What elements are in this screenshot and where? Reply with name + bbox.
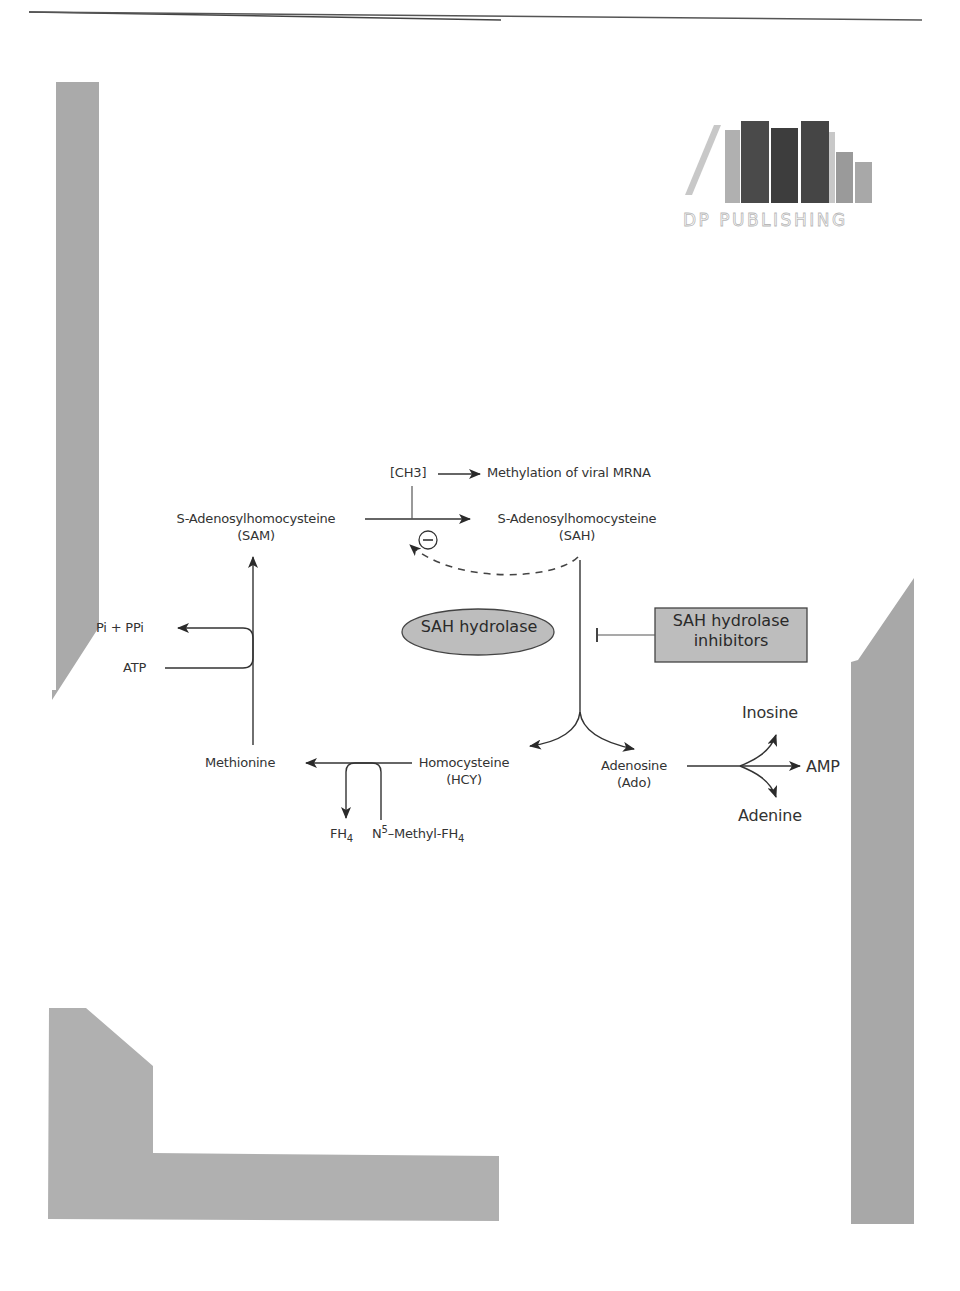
fh4-base: FH (330, 826, 347, 841)
books-bars-icon (685, 121, 872, 203)
label-pi-ppi: Pi + PPi (96, 620, 144, 635)
label-atp: ATP (123, 660, 146, 675)
decor-right-bar (851, 578, 914, 1224)
label-n5-methyl-fh4: N5–Methyl-FH4 (372, 824, 464, 844)
label-sah-name: S-Adenosylhomocysteine (498, 511, 657, 526)
n5-base: N (372, 826, 382, 841)
label-sam-name: S-Adenosylhomocysteine (177, 511, 336, 526)
arrow-to-inosine (740, 735, 776, 766)
dashed-feedback-inhibition (410, 545, 578, 575)
label-sah-inhibitors-line2: inhibitors (656, 631, 806, 651)
fh4-sub: 4 (347, 833, 353, 844)
label-sam-abbr: (SAM) (237, 528, 275, 543)
label-amp: AMP (806, 757, 840, 776)
label-methylation: Methylation of viral MRNA (487, 465, 651, 480)
label-methionine: Methionine (205, 755, 275, 770)
decor-left-bar (52, 82, 99, 700)
label-adenosine-name: Adenosine (601, 758, 667, 773)
label-homocysteine-name: Homocysteine (419, 755, 510, 770)
header-rule-full (29, 12, 922, 20)
arrow-to-adenine (740, 766, 776, 797)
n5-sub: 4 (458, 833, 464, 844)
label-sah-hydrolase: SAH hydrolase (405, 617, 553, 636)
label-adenine: Adenine (738, 806, 802, 825)
n5-rest: –Methyl-FH (388, 826, 458, 841)
arrow-atp-to-pippi (165, 628, 253, 668)
label-homocysteine-abbr: (HCY) (446, 772, 482, 787)
arrow-n5-to-fh4 (346, 763, 381, 820)
arrow-to-homocysteine (530, 712, 580, 746)
label-sah-inhibitors: SAH hydrolase inhibitors (656, 611, 806, 651)
label-inosine: Inosine (742, 703, 798, 722)
label-ch3: [CH3] (390, 465, 426, 480)
arrow-to-adenosine (580, 712, 634, 749)
label-sah-abbr: (SAH) (559, 528, 595, 543)
label-adenosine-abbr: (Ado) (617, 775, 651, 790)
page-canvas (0, 0, 960, 1291)
label-fh4: FH4 (330, 826, 353, 844)
decor-bottom-left-l (48, 1008, 499, 1221)
publisher-logo-text: DP PUBLISHING (683, 210, 848, 230)
label-sah-inhibitors-line1: SAH hydrolase (656, 611, 806, 631)
